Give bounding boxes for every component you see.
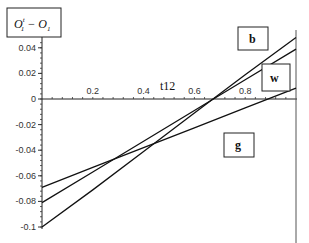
series-line-g bbox=[42, 88, 296, 187]
series-line-w bbox=[42, 49, 296, 203]
y-tick-label: -0.1 bbox=[20, 222, 36, 232]
y-tick-label: -0.02 bbox=[15, 120, 36, 130]
x-tick-label: 0.4 bbox=[137, 86, 150, 96]
series-lines bbox=[42, 38, 296, 227]
x-axis-title: t12 bbox=[160, 79, 175, 93]
series-line-b bbox=[42, 38, 296, 227]
line-chart: Ot1 − O1 0.040.020-0.02-0.04-0.06-0.08-0… bbox=[0, 0, 309, 243]
svg-text:b: b bbox=[249, 32, 256, 46]
y-tick-label: -0.04 bbox=[15, 145, 36, 155]
x-tick-label: 0.8 bbox=[239, 86, 252, 96]
y-tick-label: 0.04 bbox=[18, 43, 36, 53]
svg-text:w: w bbox=[270, 71, 279, 85]
label-box-w: w bbox=[262, 64, 290, 91]
y-tick-label: 0 bbox=[31, 94, 36, 104]
y-axis-ticks: 0.040.020-0.02-0.04-0.06-0.08-0.1 bbox=[15, 43, 42, 232]
y-tick-label: -0.08 bbox=[15, 196, 36, 206]
svg-text:Ot1 − O1: Ot1 − O1 bbox=[14, 16, 50, 33]
y-tick-label: -0.06 bbox=[15, 171, 36, 181]
y-tick-label: 0.02 bbox=[18, 68, 36, 78]
x-tick-label: 0.6 bbox=[188, 86, 201, 96]
label-box-b: b bbox=[238, 27, 268, 50]
y-axis-title-box: Ot1 − O1 bbox=[7, 8, 61, 37]
svg-text:g: g bbox=[235, 138, 241, 152]
label-box-g: g bbox=[224, 133, 254, 157]
x-tick-label: 0.2 bbox=[87, 86, 100, 96]
